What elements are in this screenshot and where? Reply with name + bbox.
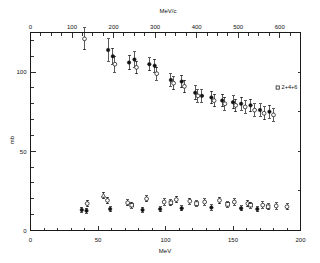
marker-filled-circle bbox=[180, 207, 184, 211]
marker-filled-circle bbox=[169, 78, 173, 82]
marker-open-circle bbox=[234, 103, 238, 107]
bottom-axis-tick-labels: 050100150200 bbox=[29, 237, 306, 243]
marker-open-circle bbox=[126, 201, 130, 205]
series-total-cross-section-open bbox=[83, 28, 276, 121]
marker-open-square bbox=[226, 203, 230, 207]
marker-filled-circle bbox=[268, 110, 272, 114]
marker-open-circle bbox=[172, 81, 176, 85]
y-tick-label: 0 bbox=[23, 228, 27, 234]
marker-filled-circle bbox=[200, 94, 204, 98]
marker-filled-circle bbox=[239, 207, 243, 211]
marker-open-circle bbox=[262, 111, 266, 115]
marker-open-circle bbox=[113, 62, 117, 66]
series-partial-cross-section-open-triangle bbox=[101, 192, 105, 198]
marker-filled-circle bbox=[193, 91, 197, 95]
marker-open-circle bbox=[188, 199, 192, 203]
marker-open-circle bbox=[196, 94, 200, 98]
series-partial-cross-section-open-square bbox=[130, 200, 270, 210]
marker-open-circle bbox=[85, 202, 89, 206]
top-tick-label: 500 bbox=[233, 24, 244, 30]
x-tick-label: 0 bbox=[29, 237, 33, 243]
marker-filled-circle bbox=[180, 80, 184, 84]
x-tick-label: 150 bbox=[228, 237, 239, 243]
marker-open-circle bbox=[145, 197, 149, 201]
x-tick-label: 50 bbox=[95, 237, 102, 243]
marker-open-circle bbox=[223, 102, 227, 106]
marker-filled-circle bbox=[220, 99, 224, 103]
marker-open-circle bbox=[83, 37, 87, 41]
top-tick-label: 300 bbox=[150, 24, 161, 30]
marker-filled-circle bbox=[153, 64, 157, 68]
data-points-layer bbox=[80, 28, 289, 213]
marker-open-square bbox=[266, 205, 270, 209]
marker-filled-circle bbox=[249, 104, 253, 108]
marker-open-circle bbox=[285, 205, 289, 209]
marker-open-circle bbox=[232, 200, 236, 204]
marker-filled-circle bbox=[258, 108, 262, 112]
marker-filled-circle bbox=[158, 207, 162, 211]
marker-open-circle bbox=[183, 84, 187, 88]
marker-open-circle bbox=[162, 200, 166, 204]
marker-open-circle bbox=[272, 113, 276, 117]
marker-open-circle bbox=[274, 204, 278, 208]
marker-filled-circle bbox=[133, 58, 137, 62]
x-axis-title: MeV bbox=[159, 248, 171, 254]
annotation-layer: 2+4+6 bbox=[276, 84, 297, 90]
marker-filled-circle bbox=[108, 207, 112, 211]
marker-open-circle bbox=[243, 105, 247, 109]
marker-filled-circle bbox=[80, 208, 84, 212]
marker-filled-circle bbox=[148, 62, 152, 66]
marker-open-square bbox=[249, 203, 253, 207]
top-tick-label: 200 bbox=[109, 24, 120, 30]
figure-root: 0100200300400500600 050100150200 050100 … bbox=[0, 0, 320, 263]
top-tick-label: 100 bbox=[67, 24, 78, 30]
marker-filled-circle bbox=[210, 206, 214, 210]
marker-filled-circle bbox=[256, 207, 260, 211]
legend-annotation: 2+4+6 bbox=[276, 84, 297, 90]
marker-open-circle bbox=[106, 199, 110, 203]
bottom-axis-ticks bbox=[31, 226, 301, 231]
y-tick-label: 50 bbox=[20, 149, 27, 155]
marker-filled-circle bbox=[141, 208, 145, 212]
top-tick-label: 400 bbox=[192, 24, 203, 30]
top-axis-tick-labels: 0100200300400500600 bbox=[29, 24, 286, 30]
marker-filled-circle bbox=[85, 209, 89, 213]
marker-open-circle bbox=[253, 108, 257, 112]
marker-open-circle bbox=[155, 72, 159, 76]
x-tick-label: 100 bbox=[160, 237, 171, 243]
marker-filled-circle bbox=[239, 102, 243, 106]
marker-open-circle bbox=[174, 198, 178, 202]
legend-marker-open-square bbox=[276, 86, 279, 89]
marker-open-circle bbox=[203, 200, 207, 204]
marker-open-circle bbox=[261, 203, 265, 207]
y-tick-label: 100 bbox=[16, 69, 27, 75]
top-axis-ticks bbox=[31, 33, 301, 38]
marker-open-circle bbox=[135, 65, 139, 69]
marker-open-circle bbox=[212, 99, 216, 103]
marker-filled-circle bbox=[210, 96, 214, 100]
left-axis-tick-labels: 050100 bbox=[16, 69, 27, 233]
top-tick-label: 0 bbox=[29, 24, 33, 30]
marker-filled-circle bbox=[106, 48, 110, 52]
marker-filled-circle bbox=[231, 100, 235, 104]
legend-annotation-label: 2+4+6 bbox=[282, 84, 298, 90]
marker-open-square bbox=[130, 203, 134, 207]
marker-open-square bbox=[195, 202, 199, 206]
series-partial-cross-section-filled-circle bbox=[80, 205, 259, 213]
top-axis-title: MeV/c bbox=[159, 8, 176, 14]
x-tick-label: 200 bbox=[295, 237, 306, 243]
marker-filled-circle bbox=[127, 61, 131, 65]
marker-open-triangle bbox=[101, 193, 105, 197]
cross-section-scatter-plot: 0100200300400500600 050100150200 050100 … bbox=[0, 0, 320, 263]
top-tick-label: 600 bbox=[275, 24, 286, 30]
marker-open-square bbox=[169, 201, 173, 205]
marker-open-circle bbox=[218, 199, 222, 203]
y-axis-title: mb bbox=[9, 135, 15, 144]
